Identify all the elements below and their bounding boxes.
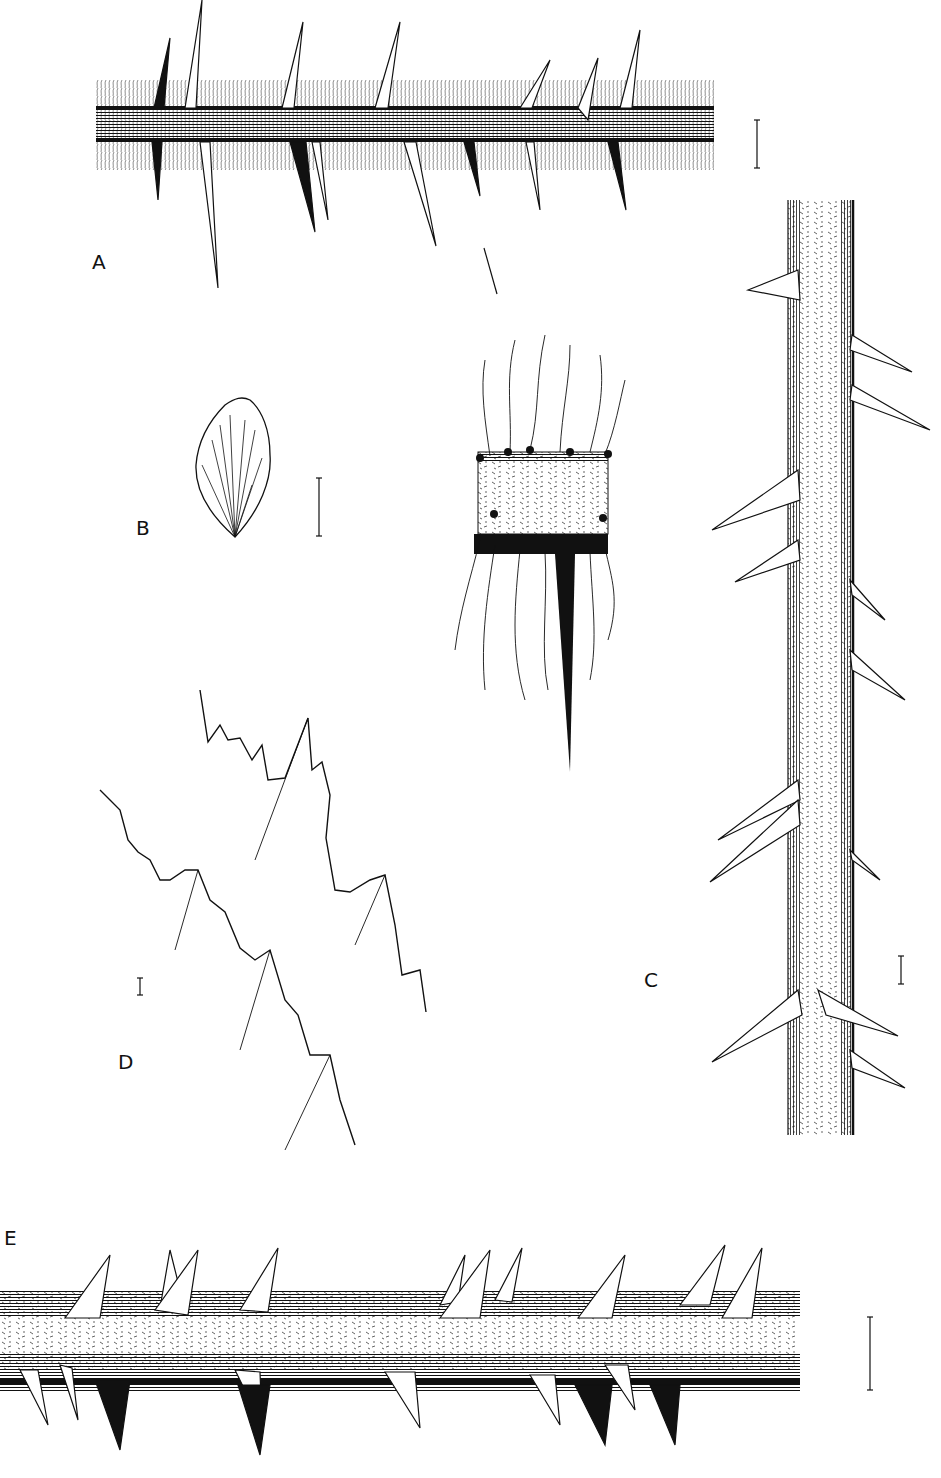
drawing-canvas bbox=[0, 0, 941, 1478]
panel-a-stem bbox=[96, 0, 714, 294]
panel-c-scale-bar bbox=[898, 956, 904, 984]
panel-e-stem bbox=[0, 1245, 800, 1455]
panel-d-scale-bar bbox=[137, 978, 143, 995]
panel-label-b: B bbox=[136, 518, 150, 538]
panel-c-stem bbox=[710, 200, 930, 1135]
panel-label-c: C bbox=[644, 970, 658, 990]
panel-b-scale-bar bbox=[316, 478, 322, 536]
panel-a-scale-bar bbox=[754, 120, 760, 168]
panel-label-d: D bbox=[118, 1052, 133, 1072]
inset-node-detail bbox=[455, 335, 625, 772]
illustration-plate: A B C D E bbox=[0, 0, 941, 1478]
panel-label-a: A bbox=[92, 252, 106, 272]
panel-d-leaf-margins bbox=[100, 690, 426, 1150]
panel-label-e: E bbox=[4, 1228, 17, 1248]
panel-b-leaflet bbox=[196, 398, 270, 537]
panel-e-scale-bar bbox=[867, 1317, 873, 1390]
